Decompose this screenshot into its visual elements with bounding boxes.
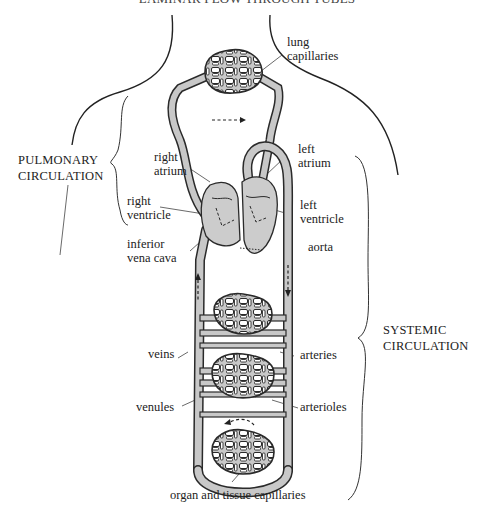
- label-left-ventricle: left ventricle: [300, 198, 344, 226]
- label-arteries: arteries: [300, 348, 337, 362]
- label-lung-capillaries: lung capillaries: [287, 35, 338, 63]
- label-venules: venules: [136, 400, 174, 414]
- label-arterioles: arterioles: [300, 400, 347, 414]
- heart: [201, 177, 277, 253]
- label-organ-tissue-capillaries: organ and tissue capillaries: [170, 488, 306, 502]
- circulatory-diagram: [0, 0, 494, 517]
- label-right-ventricle: right ventricle: [127, 194, 171, 222]
- label-pulmonary-circulation: PULMONARY CIRCULATION: [18, 152, 104, 184]
- capillary-beds: [205, 50, 274, 474]
- label-right-atrium: right atrium: [154, 150, 187, 178]
- pulmonary-bracket: [111, 96, 128, 225]
- label-left-atrium: left atrium: [298, 142, 331, 170]
- organ-capillary-bed-1: [214, 294, 272, 334]
- body-outline: [72, 15, 398, 175]
- right-heart: [201, 182, 240, 245]
- label-veins: veins: [148, 347, 174, 361]
- label-aorta: aorta: [308, 240, 333, 254]
- lung-capillary-bed: [205, 50, 262, 93]
- label-systemic-circulation: SYSTEMIC CIRCULATION: [383, 322, 469, 354]
- systemic-bracket: [348, 156, 369, 500]
- organ-capillary-bed-3: [212, 430, 274, 474]
- left-heart: [242, 177, 277, 253]
- organ-capillary-bed-2: [212, 354, 274, 398]
- label-inferior-vena-cava: inferior vena cava: [127, 237, 177, 265]
